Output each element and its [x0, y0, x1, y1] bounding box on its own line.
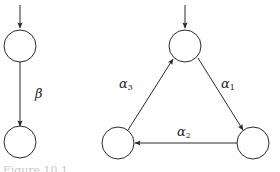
edge-label-alpha1-text: α — [221, 76, 230, 91]
edge-label-beta-text: β — [35, 86, 43, 101]
edge-label-alpha1-sub: 1 — [230, 83, 235, 92]
node-bottom-right[interactable] — [237, 127, 269, 159]
edge-label-alpha3-text: α — [119, 76, 128, 91]
edge-label-alpha2-sub: 2 — [186, 131, 191, 140]
edge-label-alpha3-sub: 3 — [128, 83, 133, 92]
edge-label-alpha3: α3 — [119, 77, 133, 90]
node-top[interactable] — [169, 30, 201, 62]
edge-alpha1[interactable] — [198, 58, 243, 130]
edge-label-beta: β — [35, 87, 43, 100]
node-bottom-left[interactable] — [102, 127, 134, 159]
edge-alpha3[interactable] — [128, 59, 173, 130]
node-L1[interactable] — [4, 30, 36, 62]
node-L2[interactable] — [4, 126, 36, 158]
figure-caption-fragment: Figure 10.1 — [3, 164, 123, 172]
figure-canvas: β α3 α1 α2 Figure 10.1 — [0, 0, 280, 172]
edge-label-alpha1: α1 — [221, 77, 235, 90]
edge-label-alpha2-text: α — [177, 124, 186, 139]
edge-label-alpha2: α2 — [177, 125, 191, 138]
left-graph — [4, 5, 36, 158]
